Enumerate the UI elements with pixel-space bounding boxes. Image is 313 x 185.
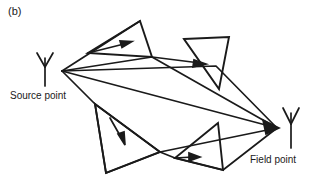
ray-lower-1 (62, 71, 277, 152)
field-point-label: Field point (250, 155, 296, 165)
figure-panel-b: (b) Source point Field point (0, 0, 313, 185)
arrow-bottom-left-triangle (110, 118, 125, 145)
panel-label: (b) (8, 6, 21, 17)
ray-paths-group (62, 21, 277, 173)
triangle-top-left (88, 21, 152, 57)
triangle-bottom-left (95, 104, 160, 173)
triangle-bottom-right (175, 123, 223, 170)
source-antenna-icon (37, 53, 53, 86)
arrow-top-left-triangle (88, 41, 132, 53)
field-antenna-icon (283, 108, 299, 148)
triangle-top-right (184, 37, 229, 89)
source-point-label: Source point (10, 91, 66, 101)
ray-direct (62, 71, 277, 128)
